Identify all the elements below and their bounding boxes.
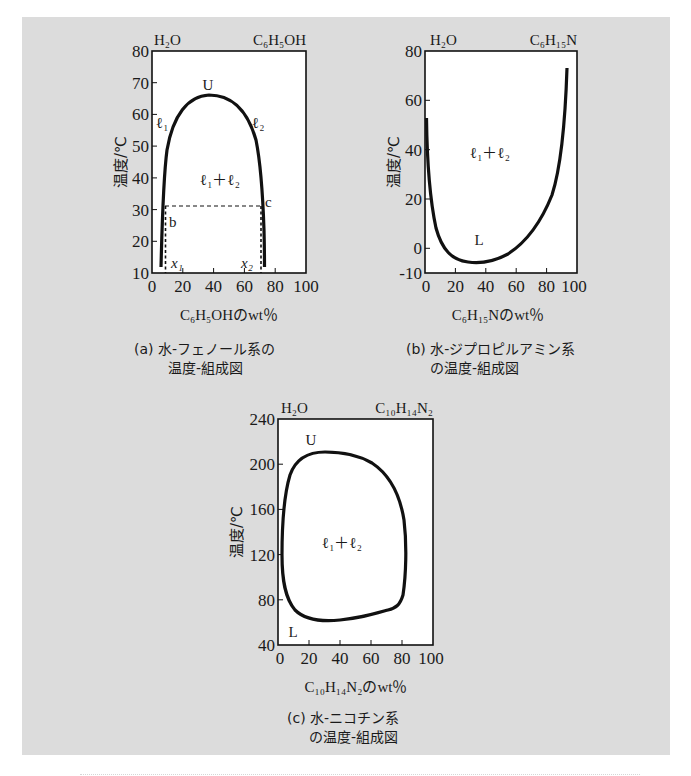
y-tick: -10 [399, 264, 422, 283]
label-l2-a: ℓ₂ [252, 115, 264, 131]
x-tick: 0 [276, 649, 285, 668]
y-axis-label-c: 温度/℃ [228, 506, 246, 558]
label-region-b: ℓ₁＋ℓ₂ [470, 145, 510, 161]
y-tick: 50 [132, 137, 149, 156]
right-component-c: C₁₀H₁₄N₂ [375, 400, 433, 416]
left-component-c: H₂O [281, 400, 308, 416]
x-tick: 0 [422, 277, 431, 296]
x-tick: 20 [174, 277, 191, 296]
y-tick: 30 [132, 201, 149, 220]
x-tick: 60 [236, 277, 253, 296]
y-tick: 80 [258, 591, 275, 610]
right-component-b: C₆H₁₅N [530, 32, 578, 48]
x-axis-label-a: C₆H₅OHのwt％ [180, 307, 278, 323]
y-axis-a: 80 70 60 50 40 30 20 10 温度/℃ [112, 42, 157, 283]
y-tick: 80 [405, 42, 422, 61]
figure-svg: H₂O C₆H₅OH 80 70 60 50 40 30 20 10 温度/℃ … [0, 0, 691, 776]
right-component-a: C₆H₅OH [253, 32, 306, 48]
x-tick: 0 [148, 277, 157, 296]
y-axis-b: 80 60 40 20 0 -10 温度/℃ [385, 42, 430, 283]
y-tick: 80 [132, 42, 149, 61]
x-tick: 40 [477, 277, 494, 296]
x-tick: 60 [363, 649, 380, 668]
x-tick: 80 [394, 649, 411, 668]
y-tick: 20 [132, 232, 149, 251]
label-x1: x₁ [170, 255, 183, 271]
figure-caption-cropped [80, 769, 640, 776]
label-x2: x₂ [240, 255, 253, 271]
left-component-a: H₂O [154, 32, 181, 48]
y-tick: 10 [132, 264, 149, 283]
y-axis-label-a: 温度/℃ [112, 136, 130, 188]
caption-a-line2: 温度-組成図 [168, 360, 243, 376]
label-c: c [265, 194, 272, 210]
plot-area-c [278, 419, 433, 645]
x-tick: 60 [508, 277, 525, 296]
label-U-a: U [203, 77, 214, 93]
x-axis-a: 0 20 40 60 80 100 C₆H₅OHのwt％ [148, 268, 319, 323]
left-component-b: H₂O [430, 32, 457, 48]
chart-a: H₂O C₆H₅OH 80 70 60 50 40 30 20 10 温度/℃ … [112, 32, 319, 376]
label-L-c: L [288, 624, 297, 640]
caption-b-line1: (b) 水-ジプロピルアミン系 [406, 341, 575, 357]
x-axis-label-b: C₆H₁₅Nのwt％ [452, 307, 544, 323]
y-tick: 40 [258, 636, 275, 655]
label-l1-a: ℓ₁ [156, 115, 168, 131]
y-tick: 60 [132, 105, 149, 124]
plot-area-a [152, 51, 306, 273]
x-tick: 100 [561, 277, 587, 296]
y-axis-c: 240 200 160 120 80 40 温度/℃ [228, 410, 283, 655]
x-tick: 20 [301, 649, 318, 668]
y-tick: 0 [414, 239, 423, 258]
x-tick: 20 [447, 277, 464, 296]
y-tick: 60 [405, 91, 422, 110]
y-tick: 20 [405, 190, 422, 209]
y-tick: 120 [250, 546, 276, 565]
x-tick: 80 [538, 277, 555, 296]
caption-c-line1: (c) 水-ニコチン系 [287, 710, 399, 726]
label-U-c: U [306, 432, 317, 448]
y-tick: 160 [250, 500, 276, 519]
label-b: b [169, 214, 177, 230]
x-tick: 80 [267, 277, 284, 296]
y-tick: 200 [250, 455, 276, 474]
y-axis-label-b: 温度/℃ [385, 136, 403, 188]
x-axis-c: 0 20 40 60 80 100 C₁₀H₁₄N₂のwt％ [276, 640, 444, 695]
label-region-a: ℓ₁＋ℓ₂ [200, 172, 240, 188]
x-axis-b: 0 20 40 60 80 100 C₆H₁₅Nのwt％ [422, 268, 587, 323]
caption-a-line1: (a) 水-フェノール系の [134, 341, 275, 357]
chart-c: H₂O C₁₀H₁₄N₂ 240 200 160 120 80 40 温度/℃ … [228, 400, 444, 745]
x-tick: 100 [418, 649, 444, 668]
caption-c-line2: の温度-組成図 [309, 729, 398, 745]
y-tick: 70 [132, 74, 149, 93]
y-tick: 240 [250, 410, 276, 429]
x-tick: 40 [332, 649, 349, 668]
label-region-c: ℓ₁＋ℓ₂ [322, 535, 362, 551]
label-L-b: L [474, 232, 483, 248]
y-tick: 40 [132, 169, 149, 188]
x-tick: 100 [293, 277, 319, 296]
chart-b: H₂O C₆H₁₅N 80 60 40 20 0 -10 温度/℃ 0 20 4… [385, 32, 587, 376]
x-tick: 40 [205, 277, 222, 296]
caption-b-line2: の温度-組成図 [430, 360, 519, 376]
x-axis-label-c: C₁₀H₁₄N₂のwt％ [305, 679, 408, 695]
plot-area-b [425, 51, 577, 273]
y-tick: 40 [405, 141, 422, 160]
